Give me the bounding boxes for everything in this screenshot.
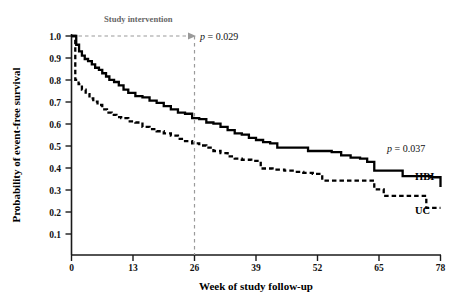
y-tick-label: 1.0 <box>49 32 61 42</box>
x-tick-label: 52 <box>313 263 323 273</box>
y-tick-label: 0.9 <box>49 54 61 64</box>
x-tick-label: 0 <box>69 263 74 273</box>
p-value-top: p = 0.029 <box>199 31 238 42</box>
km-survival-chart: 1.0 0.9 0.8 0.7 0.6 0.5 0.4 0.3 0.2 0.1 … <box>0 0 452 299</box>
x-tick-label: 26 <box>190 263 200 273</box>
x-tick-labels: 0 13 26 39 52 65 78 <box>69 263 445 273</box>
x-axis-title: Week of study follow-up <box>199 280 313 292</box>
kaplan-meier-figure: 1.0 0.9 0.8 0.7 0.6 0.5 0.4 0.3 0.2 0.1 … <box>0 0 452 299</box>
y-tick-label: 0.6 <box>49 120 61 130</box>
p-value-right: p = 0.037 <box>386 143 425 154</box>
p-right-rest: = 0.037 <box>392 143 425 154</box>
p-top-rest: = 0.029 <box>205 31 238 42</box>
y-axis-title: Probability of event-free survival <box>10 67 22 222</box>
y-tick-labels: 1.0 0.9 0.8 0.7 0.6 0.5 0.4 0.3 0.2 0.1 <box>49 32 61 240</box>
study-intervention-label: Study intervention <box>104 14 173 24</box>
x-tick-label: 78 <box>436 263 446 273</box>
y-tick-label: 0.1 <box>49 230 61 240</box>
x-ticks <box>72 255 441 261</box>
series-label-hbi: HBI <box>415 171 434 182</box>
y-ticks <box>66 36 72 234</box>
x-tick-label: 39 <box>251 263 261 273</box>
y-tick-label: 0.7 <box>49 98 61 108</box>
y-tick-label: 0.8 <box>49 76 61 86</box>
curve-hbi <box>72 36 441 187</box>
y-tick-label: 0.5 <box>49 142 61 152</box>
axes <box>72 34 442 255</box>
y-tick-label: 0.3 <box>49 186 61 196</box>
x-tick-label: 13 <box>128 263 138 273</box>
series-label-uc: UC <box>415 205 430 216</box>
y-tick-label: 0.4 <box>49 164 61 174</box>
y-tick-label: 0.2 <box>49 208 61 218</box>
intervention-arrow <box>72 33 196 40</box>
x-tick-label: 65 <box>374 263 384 273</box>
curve-uc <box>72 36 441 208</box>
